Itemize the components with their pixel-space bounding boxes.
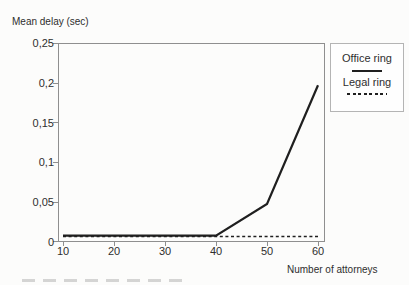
y-axis-title: Mean delay (sec)	[12, 16, 89, 27]
y-tick-label: 0,25	[8, 37, 54, 49]
plot-lines	[58, 43, 325, 242]
x-tick-label: 50	[250, 245, 284, 257]
x-tick-label: 40	[199, 245, 233, 257]
y-tick-label: 0,1	[8, 156, 54, 168]
legend-box: Office ring Legal ring	[330, 43, 404, 112]
y-tick-label: 0,2	[8, 77, 54, 89]
x-tick-label: 10	[46, 245, 80, 257]
cutoff-caption-remnant	[22, 279, 190, 282]
y-tick-label: 0,15	[8, 117, 54, 129]
dashed-line-sample	[347, 93, 387, 95]
x-tick-label: 60	[301, 245, 335, 257]
x-tick-label: 30	[148, 245, 182, 257]
x-tick-label: 20	[97, 245, 131, 257]
y-tick-label: 0,05	[8, 196, 54, 208]
x-axis-title: Number of attorneys	[287, 264, 378, 275]
office-ring-line	[63, 85, 318, 236]
solid-line-sample	[352, 70, 382, 72]
legend-label-legal-ring: Legal ring	[343, 76, 391, 89]
chart-figure: Mean delay (sec) 0,25 0,2 0,15 0,1 0,05 …	[0, 0, 409, 285]
legend-label-office-ring: Office ring	[342, 52, 392, 65]
